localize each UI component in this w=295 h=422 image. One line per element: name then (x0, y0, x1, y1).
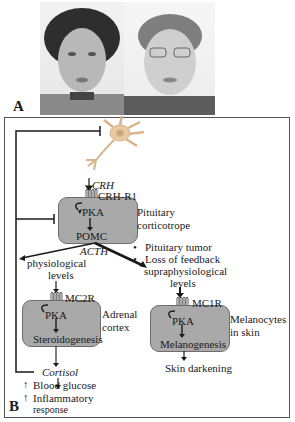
physiological-label-1: physiological (27, 257, 86, 269)
pomc-label: POMC (76, 230, 107, 242)
panel-a-label: A (13, 98, 24, 115)
crh-r1-receptor-label: CRH-R1 (98, 190, 137, 202)
effect-response: response (33, 404, 68, 416)
patient-photo-left (40, 2, 124, 115)
mc2r-receptor-label: MC2R (65, 292, 95, 304)
condition-pituitary-tumor: Pituitary tumor (145, 241, 212, 253)
condition-loss-of-feedback: Loss of feedback (145, 253, 220, 265)
physiological-label-2: levels (48, 269, 74, 281)
melanocyte-cell-label-1: Melanocytes (230, 313, 286, 325)
adrenal-pka-label: PKA (45, 309, 67, 321)
up-arrow-icon: ↑ (23, 391, 29, 403)
supraphysiological-label-1: supraphysiological (144, 265, 227, 277)
adrenal-cell-label-2: cortex (102, 321, 129, 333)
condition-bullet-2: • (133, 253, 137, 265)
pituitary-cell-label-1: Pituitary (137, 206, 175, 218)
steroidogenesis-label: Steroidogenesis (33, 333, 103, 345)
panel-a: A (0, 0, 295, 117)
melanogenesis-label: Melanogenesis (160, 338, 226, 350)
effect-blood-glucose: Blood glucose (33, 379, 96, 391)
pituitary-cell-label-2: corticotrope (137, 219, 190, 231)
condition-bullet-1: • (133, 241, 137, 253)
supraphysiological-label-2: levels (170, 277, 196, 289)
skin-darkening-label: Skin darkening (165, 362, 232, 374)
panel-b-label: B (9, 398, 19, 415)
patient-photo-right (124, 2, 215, 115)
melanocyte-cell-label-2: in skin (230, 326, 260, 338)
cortisol-label: Cortisol (42, 366, 78, 378)
mc1r-receptor-label: MC1R (192, 297, 222, 309)
adrenal-cell-label-1: Adrenal (102, 308, 137, 320)
effect-inflammatory: Inflammatory (33, 392, 93, 404)
melanocyte-pka-label: PKA (172, 315, 194, 327)
up-arrow-icon: ↑ (23, 378, 29, 390)
acth-label: ACTH (80, 245, 108, 257)
pituitary-pka-label: PKA (82, 206, 104, 218)
